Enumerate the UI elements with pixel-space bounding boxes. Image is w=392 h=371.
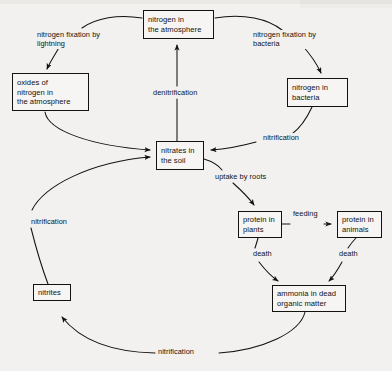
node-protein-in-animals: protein in animals [337,211,382,238]
edge-label-death-animals: death [338,249,359,258]
edge-label-feeding: feeding [292,209,319,218]
edge-plants-to-death [255,238,258,248]
node-ammonia-in-dead-organic-matter: ammonia in dead organic matter [272,285,346,312]
scan-artifact-corner [300,0,392,8]
edge-left-nitrification-to-nitrates [32,157,150,210]
edge-label-nitrogen-fixation-by-bacteria: nitrogen fixation by bacteria [252,30,317,49]
edge-label-death-plants: death [252,249,273,258]
edge-animals-to-death [348,238,356,248]
edge-label-nitrogen-fixation-by-lightning: nitrogen fixation by lightning [36,30,101,49]
node-nitrites: nitrites [33,284,71,301]
node-nitrogen-in-the-atmosphere: nitrogen in the atmosphere [143,10,214,39]
edge-ammonia-to-bottom-nitrification [219,312,305,353]
edge-bottom-nitrification-to-nitrites [62,317,155,353]
edge-uptake-to-plants [233,183,254,205]
node-oxides-of-nitrogen-in-the-atmosphere: oxides of nitrogen in the atmosphere [12,73,89,111]
edge-label-nitrification-nitrites: nitrification [30,217,68,226]
edge-atmosphere-to-lightning-arc [82,16,142,28]
edge-lightning-to-oxides [47,46,60,69]
edge-nitrification-to-nitrates [211,142,256,150]
node-nitrates-in-the-soil: nitrates in the soil [156,141,204,170]
edge-atmosphere-to-bacteria-arc [215,16,282,30]
edge-oxides-to-nitrates [45,112,150,150]
edge-death-to-ammonia-animals [329,262,342,281]
edge-bacteria-to-nitrification [292,107,312,134]
edge-death-to-ammonia-plants [259,262,278,281]
edge-nitrites-to-left-nitrification [31,228,48,284]
edge-label-denitrification: denitrification [152,88,198,97]
edge-layer [0,0,392,371]
edge-label-nitrification-bacteria: nitrification [262,133,300,142]
node-protein-in-plants: protein in plants [238,211,282,238]
edge-label-uptake-by-roots: uptake by roots [214,172,267,181]
edge-nitrates-to-uptake [204,159,222,170]
edge-label-nitrification-ammonia: nitrification [157,347,195,356]
nitrogen-cycle-diagram: nitrogen in the atmosphere oxides of nit… [0,0,392,371]
node-nitrogen-in-bacteria: nitrogen in bacteria [287,78,348,107]
